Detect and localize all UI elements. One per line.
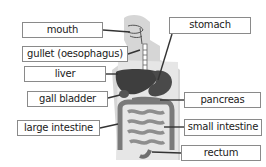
label-large-intestine: large intestine [17, 120, 100, 136]
gall-bladder-organ [119, 90, 129, 98]
label-gullet-oesophagus: gullet (oesophagus) [22, 46, 128, 62]
label-rectum: rectum [181, 145, 261, 161]
label-liver: liver [24, 66, 106, 82]
label-pancreas: pancreas [184, 92, 261, 108]
label-stomach: stomach [169, 17, 251, 34]
oesophagus-organ [143, 44, 147, 72]
label-small-intestine: small intestine [184, 119, 262, 136]
label-mouth: mouth [22, 22, 103, 38]
label-gall-bladder: gall bladder [27, 91, 108, 107]
